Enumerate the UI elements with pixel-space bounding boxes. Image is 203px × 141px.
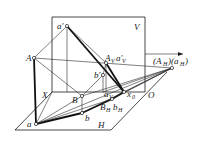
label-AH-aH: (A H )(a H ) — [153, 56, 188, 67]
line-A-a — [34, 58, 36, 124]
point-a-prime — [65, 24, 68, 27]
point-b-prime — [101, 73, 104, 76]
label-H: H — [97, 120, 105, 130]
label-AV: A — [104, 53, 111, 63]
label-b-prime: b′ — [94, 70, 102, 80]
svg-text:): ) — [184, 56, 188, 66]
label-V: V — [134, 22, 141, 32]
point-b — [80, 111, 83, 114]
label-x0-sub: 0 — [132, 94, 135, 100]
label-x0: x — [126, 89, 131, 99]
projection-diagram: V H X O a′ A A V a′ V b′ B a V x 0 B H b… — [0, 0, 203, 141]
point-A — [32, 56, 35, 59]
point-a — [34, 122, 37, 125]
label-B: B — [72, 95, 78, 105]
label-O: O — [148, 90, 155, 100]
point-B — [80, 94, 83, 97]
point-x0 — [122, 90, 125, 93]
h-plane — [15, 72, 167, 130]
label-bH-sub: H — [117, 107, 123, 113]
svg-text:(A: (A — [153, 56, 162, 66]
label-X: X — [41, 90, 48, 100]
label-a: a — [27, 119, 32, 129]
arrow-head-icon — [178, 52, 183, 56]
label-BH-sub: H — [105, 107, 111, 113]
label-A: A — [25, 53, 32, 63]
label-aV-prime-sub: V — [122, 58, 127, 64]
svg-text:)(a: )(a — [167, 56, 179, 66]
label-b: b — [85, 113, 90, 123]
point-AH — [170, 66, 173, 69]
fan-line-8 — [124, 68, 172, 92]
label-a-prime: a′ — [57, 21, 65, 31]
